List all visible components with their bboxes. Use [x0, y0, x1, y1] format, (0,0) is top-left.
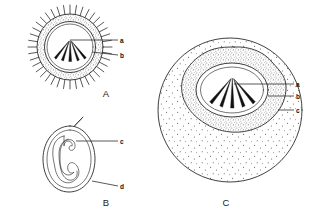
panel-c-label-a: a	[296, 81, 300, 88]
panel-b-group: c d B	[43, 117, 124, 208]
panel-a-letter: A	[103, 88, 110, 99]
panel-c-group: a b c C	[158, 38, 302, 208]
panel-c-letter: C	[222, 197, 229, 208]
panel-a-label-a: a	[120, 37, 124, 44]
panel-b-label-d: d	[120, 183, 124, 190]
panel-b-letter: B	[103, 197, 110, 208]
panel-c-label-c: c	[296, 107, 300, 114]
panel-a-label-b: b	[120, 52, 124, 59]
figure-root: a b A c d B	[0, 0, 326, 217]
panel-a-group: a b A	[28, 5, 124, 99]
biological-diagram-svg: a b A c d B	[0, 0, 326, 217]
panel-b-leader-d	[92, 181, 118, 186]
panel-c-label-b: b	[296, 93, 300, 100]
panel-b-label-c: c	[120, 138, 124, 145]
